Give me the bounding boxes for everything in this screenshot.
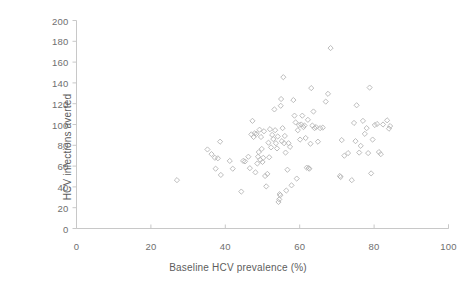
data-point-marker — [370, 137, 375, 142]
data-point-marker — [303, 135, 308, 140]
x-tick-label: 40 — [220, 241, 231, 252]
data-point-marker — [283, 150, 288, 155]
data-point-marker — [351, 120, 356, 125]
data-point-marker — [387, 123, 392, 128]
data-point-marker — [247, 166, 252, 171]
data-point-marker — [297, 137, 302, 142]
y-tick-label: 160 — [30, 57, 69, 68]
scatter-chart-figure: 020406080100120140160180200020406080100 … — [0, 0, 476, 293]
data-point-marker — [276, 199, 281, 204]
data-point-marker — [325, 91, 330, 96]
data-point-marker — [264, 184, 269, 189]
data-point-marker — [339, 138, 344, 143]
y-tick-label: 140 — [30, 77, 69, 88]
data-point-marker — [278, 103, 283, 108]
data-point-marker — [218, 172, 223, 177]
data-point-marker — [217, 139, 222, 144]
data-point-marker — [357, 150, 362, 155]
data-point-marker — [289, 183, 294, 188]
data-point-marker — [258, 134, 263, 139]
data-point-marker — [275, 134, 280, 139]
scatter-series — [174, 45, 392, 204]
data-point-marker — [309, 86, 314, 91]
x-tick-label: 0 — [74, 241, 79, 252]
data-point-marker — [385, 118, 390, 123]
data-point-marker — [273, 128, 278, 133]
y-tick-label: 200 — [30, 15, 69, 26]
data-point-marker — [213, 166, 218, 171]
data-point-marker — [253, 170, 258, 175]
data-point-marker — [328, 45, 333, 50]
data-point-marker — [239, 189, 244, 194]
data-point-marker — [274, 146, 279, 151]
x-tick-label: 100 — [440, 241, 456, 252]
data-point-marker — [209, 152, 214, 157]
data-point-marker — [294, 176, 299, 181]
data-point-marker — [255, 154, 260, 159]
data-point-marker — [369, 171, 374, 176]
data-point-marker — [279, 96, 284, 101]
data-point-marker — [292, 113, 297, 118]
data-point-marker — [305, 117, 310, 122]
data-point-marker — [358, 143, 363, 148]
data-point-marker — [205, 147, 210, 152]
x-tick-label: 80 — [369, 241, 380, 252]
data-point-marker — [364, 126, 369, 131]
data-point-marker — [386, 126, 391, 131]
data-point-marker — [362, 131, 367, 136]
data-point-marker — [367, 85, 372, 90]
x-tick-label: 20 — [145, 241, 156, 252]
data-point-marker — [230, 166, 235, 171]
data-point-marker — [311, 109, 316, 114]
data-point-marker — [360, 118, 365, 123]
data-point-marker — [285, 167, 290, 172]
y-tick-label: 180 — [30, 36, 69, 47]
data-point-marker — [267, 127, 272, 132]
data-point-marker — [291, 97, 296, 102]
y-tick-label: 0 — [30, 223, 69, 234]
data-point-marker — [380, 122, 385, 127]
data-point-marker — [272, 107, 277, 112]
data-point-marker — [282, 133, 287, 138]
x-tick-label: 60 — [294, 241, 305, 252]
data-point-marker — [280, 126, 285, 131]
data-point-marker — [174, 178, 179, 183]
data-point-marker — [354, 103, 359, 108]
data-point-marker — [366, 151, 371, 156]
data-point-marker — [281, 75, 286, 80]
data-point-marker — [300, 113, 305, 118]
data-point-marker — [284, 188, 289, 193]
data-point-marker — [267, 155, 272, 160]
data-point-marker — [227, 158, 232, 163]
data-point-marker — [266, 140, 271, 145]
data-point-marker — [308, 141, 313, 146]
data-point-marker — [295, 128, 300, 133]
y-tick-label: 20 — [30, 202, 69, 213]
data-point-marker — [353, 139, 358, 144]
data-point-marker — [315, 139, 320, 144]
data-point-marker — [323, 99, 328, 104]
x-axis-title: Baseline HCV prevalence (%) — [0, 262, 476, 273]
data-point-marker — [349, 178, 354, 183]
y-axis-title: HCV infections averted — [62, 93, 73, 200]
data-point-marker — [268, 145, 273, 150]
data-point-marker — [246, 154, 251, 159]
data-point-marker — [250, 118, 255, 123]
